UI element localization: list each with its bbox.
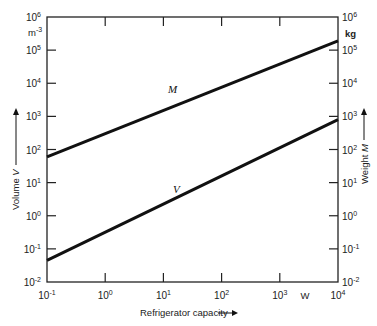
y-tick-label-right: 10-1 (342, 243, 359, 255)
y-tick-label-right: 100 (342, 210, 357, 222)
y-axis-arrow-head-left (13, 108, 19, 115)
y-tick-label-left: 103 (26, 110, 41, 122)
y-tick-label-left: 105 (26, 44, 41, 56)
y-unit-left: m-3 (28, 26, 42, 38)
y-tick-label-right: 103 (342, 110, 357, 122)
y-axis-title-right: Weight M (359, 144, 370, 184)
log-log-chart: 10-210-210-110-1100100101101102102103103… (0, 0, 377, 326)
y-tick-label-right: 101 (342, 177, 357, 189)
x-unit: W (301, 290, 310, 301)
y-tick-label-left: 10-2 (24, 276, 41, 288)
y-tick-label-left: 106 (26, 11, 41, 23)
y-tick-label-left: 101 (26, 177, 41, 189)
series-label-v: V (173, 183, 181, 195)
axis-labels: m-3kgWRefrigerator capacityVolume VWeigh… (10, 26, 370, 318)
y-axis-arrow-head-right (361, 108, 367, 115)
y-axis-title-left: Volume V (10, 168, 21, 210)
x-tick-label: 103 (272, 289, 287, 301)
y-tick-label-left: 10-1 (24, 243, 41, 255)
y-tick-label-left: 104 (26, 77, 41, 89)
x-tick-label: 10-1 (38, 289, 55, 301)
x-tick-label: 101 (156, 289, 171, 301)
y-tick-label-left: 100 (26, 210, 41, 222)
x-axis-arrow-head (232, 310, 238, 316)
y-tick-label-right: 105 (342, 44, 357, 56)
x-tick-label: 102 (214, 289, 229, 301)
axis-ticks: 10-210-210-110-1100100101101102102103103… (24, 11, 360, 301)
y-tick-label-right: 102 (342, 144, 357, 156)
x-tick-label: 104 (330, 289, 345, 301)
y-tick-label-left: 102 (26, 144, 41, 156)
y-tick-label-right: 106 (342, 11, 357, 23)
series-lines: MV (47, 41, 338, 261)
series-label-m: M (167, 83, 178, 95)
x-tick-label: 100 (98, 289, 113, 301)
y-tick-label-right: 10-2 (342, 276, 359, 288)
x-axis-title: Refrigerator capacity (140, 307, 228, 318)
y-unit-right: kg (345, 28, 356, 39)
y-tick-label-right: 104 (342, 77, 357, 89)
